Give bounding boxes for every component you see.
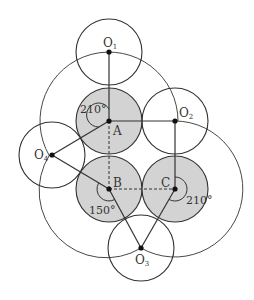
label-O3: O3 <box>135 253 149 268</box>
label-B: B <box>113 176 122 190</box>
point-O3 <box>138 245 143 250</box>
label-O1: O1 <box>103 36 117 51</box>
label-O2: O2 <box>179 106 193 121</box>
point-O1 <box>106 49 111 54</box>
point-B <box>106 186 111 191</box>
point-C <box>172 186 177 191</box>
angle-label-C: 210° <box>186 194 213 207</box>
point-O2 <box>172 118 177 123</box>
angle-label-A: 210° <box>80 103 107 116</box>
label-C: C <box>161 176 170 190</box>
point-O4 <box>49 152 54 157</box>
label-A: A <box>112 124 122 138</box>
angle-label-B: 150° <box>89 204 116 217</box>
circles-diagram: A B C O1 O2 O3 O4 210° 150° 210° <box>0 0 254 300</box>
diagram-canvas: A B C O1 O2 O3 O4 210° 150° 210° <box>0 0 254 300</box>
point-A <box>106 118 111 123</box>
